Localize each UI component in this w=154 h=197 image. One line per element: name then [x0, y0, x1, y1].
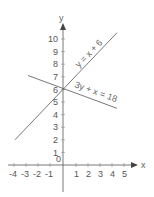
x-tick-labels: -4 -3 -2 -1 1 2 3 4 5: [9, 169, 127, 179]
x-axis-label: x: [141, 160, 146, 170]
svg-text:4: 4: [110, 169, 115, 179]
y-axis-arrow-icon: [60, 23, 66, 30]
svg-text:9: 9: [53, 47, 58, 57]
svg-text:-4: -4: [9, 169, 17, 179]
svg-text:4: 4: [53, 110, 58, 120]
svg-text:7: 7: [53, 72, 58, 82]
svg-text:8: 8: [53, 59, 58, 69]
svg-text:-3: -3: [21, 169, 29, 179]
svg-text:3: 3: [53, 122, 58, 132]
svg-text:2: 2: [86, 169, 91, 179]
y-axis-label: y: [59, 13, 64, 23]
svg-text:-1: -1: [45, 169, 53, 179]
svg-text:10: 10: [48, 34, 58, 44]
line-y-equals-x-plus-6: [15, 33, 117, 140]
svg-text:1: 1: [74, 169, 79, 179]
svg-text:-2: -2: [33, 169, 41, 179]
svg-text:3: 3: [98, 169, 103, 179]
x-axis-arrow-icon: [131, 162, 138, 168]
line1-label: y = x + 6: [73, 38, 104, 70]
graph: x y 0 -4 -3 -2 -1 1 2 3 4 5 1 2 3 4 5 6 …: [0, 0, 154, 197]
svg-text:2: 2: [53, 135, 58, 145]
svg-text:5: 5: [122, 169, 127, 179]
svg-text:1: 1: [53, 148, 58, 158]
